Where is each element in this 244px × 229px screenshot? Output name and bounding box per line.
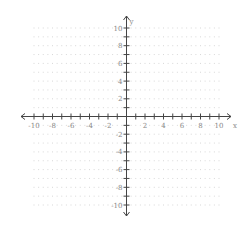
y-axis-label: y <box>129 18 134 26</box>
x-tick-label: -10 <box>28 122 39 130</box>
y-tick-label: -2 <box>116 131 123 139</box>
x-tick-label: 2 <box>143 122 147 130</box>
y-tick-label: -10 <box>111 202 122 210</box>
x-tick-label: 10 <box>215 122 224 130</box>
x-tick-label: 6 <box>180 122 185 130</box>
y-tick-label: -8 <box>116 184 123 192</box>
y-tick-label: 2 <box>118 95 122 103</box>
y-tick-label: 6 <box>118 60 123 68</box>
x-tick-label: -8 <box>49 122 56 130</box>
y-tick-label: 10 <box>114 25 123 33</box>
y-tick-label: -6 <box>116 166 123 174</box>
coordinate-plane: -10-8-6-4-2246810108642-2-4-6-8-10 x y <box>0 0 244 229</box>
x-tick-label: -2 <box>105 122 112 130</box>
y-tick-label: 4 <box>118 78 123 86</box>
x-tick-label: -4 <box>86 122 93 130</box>
x-tick-label: 8 <box>198 122 202 130</box>
x-axis-label: x <box>233 122 237 130</box>
x-tick-label: 4 <box>161 122 166 130</box>
y-tick-label: -4 <box>116 148 123 156</box>
y-tick-label: 8 <box>118 42 122 50</box>
x-tick-label: -6 <box>68 122 75 130</box>
